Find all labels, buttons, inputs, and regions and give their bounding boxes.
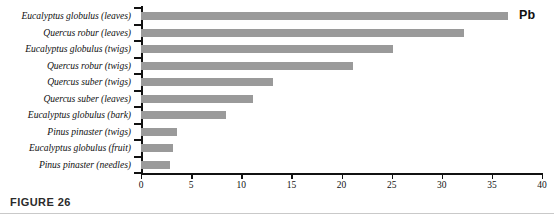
category-label: Eucalyptus globulus (fruit): [0, 140, 136, 157]
bar: [141, 29, 464, 37]
x-axis-tick: [342, 174, 343, 179]
y-axis-tick: [134, 24, 141, 26]
y-axis-tick: [134, 7, 141, 9]
x-axis-tick-label: 35: [487, 180, 497, 190]
category-label: Pinus pinaster (needles): [0, 157, 136, 174]
x-axis-tick: [542, 174, 543, 179]
bar-row: [141, 124, 542, 141]
x-axis-tick: [241, 174, 242, 179]
category-label: Eucalyptus globulus (twigs): [0, 41, 136, 58]
bar-chart: Eucalyptus globulus (leaves) Quercus rob…: [0, 0, 554, 190]
x-axis-tick: [392, 174, 393, 179]
category-label: Pinus pinaster (twigs): [0, 124, 136, 141]
bar-row: [141, 74, 542, 91]
bar-row: [141, 107, 542, 124]
bar: [141, 161, 170, 169]
bar-row: [141, 25, 542, 42]
y-axis-tick: [134, 40, 141, 42]
x-axis-tick-label: 25: [387, 180, 397, 190]
caption-divider: [0, 213, 554, 214]
element-annotation-pb: Pb: [519, 8, 535, 22]
bar: [141, 62, 353, 70]
y-axis-tick: [134, 172, 141, 174]
plot-area: [141, 8, 542, 173]
category-axis-labels: Eucalyptus globulus (leaves) Quercus rob…: [0, 8, 136, 173]
bar: [141, 128, 177, 136]
x-axis-tick-label: 15: [287, 180, 297, 190]
x-axis-tick-label: 5: [189, 180, 194, 190]
figure-caption-label: FIGURE 26: [10, 196, 71, 208]
category-label: Eucalyptus globulus (leaves): [0, 8, 136, 25]
x-axis-tick-label: 40: [537, 180, 547, 190]
x-axis-tick: [442, 174, 443, 179]
bar: [141, 78, 273, 86]
category-label: Quercus robur (leaves): [0, 25, 136, 42]
x-axis-tick-label: 10: [237, 180, 247, 190]
bar: [141, 144, 173, 152]
bar: [141, 45, 393, 53]
bar-row: [141, 41, 542, 58]
x-axis-tick: [191, 174, 192, 179]
y-axis-tick: [134, 57, 141, 59]
x-axis-tick: [492, 174, 493, 179]
x-axis-tick: [291, 174, 292, 179]
bar-row: [141, 8, 542, 25]
bar: [141, 111, 226, 119]
category-label: Quercus robur (twigs): [0, 58, 136, 75]
y-axis-tick: [134, 123, 141, 125]
bar-row: [141, 140, 542, 157]
bar: [141, 95, 253, 103]
y-axis-tick: [134, 156, 141, 158]
y-axis-tick: [134, 139, 141, 141]
bar-row: [141, 58, 542, 75]
y-axis-tick: [134, 90, 141, 92]
category-label: Eucalyptus globulus (bark): [0, 107, 136, 124]
bar-row: [141, 91, 542, 108]
category-label: Quercus suber (leaves): [0, 91, 136, 108]
y-axis-tick: [134, 106, 141, 108]
x-axis-tick: [141, 174, 142, 179]
x-axis-tick-label: 20: [337, 180, 347, 190]
x-axis-tick-label: 0: [139, 180, 144, 190]
x-axis-tick-label: 30: [437, 180, 447, 190]
bar-row: [141, 157, 542, 174]
y-axis-tick: [134, 73, 141, 75]
category-label: Quercus suber (twigs): [0, 74, 136, 91]
figure-26: Eucalyptus globulus (leaves) Quercus rob…: [0, 0, 554, 217]
bar-series: [141, 8, 542, 173]
bar: [141, 12, 508, 20]
